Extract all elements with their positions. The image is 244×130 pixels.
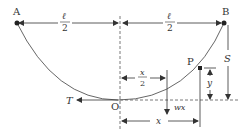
half-span-right-num: ℓ xyxy=(167,11,171,21)
s-label: S xyxy=(224,53,231,64)
wx-label: wx xyxy=(174,103,186,112)
half-span-left-den: 2 xyxy=(62,23,68,33)
half-span-left-num: ℓ xyxy=(62,11,66,21)
point-o-label: O xyxy=(111,101,119,112)
point-a-label: A xyxy=(12,6,21,17)
support-a-icon xyxy=(15,21,20,26)
tension-label: T xyxy=(66,95,74,106)
x-label: x xyxy=(156,116,161,126)
half-span-right-den: 2 xyxy=(167,23,173,33)
point-b-label: B xyxy=(222,6,229,17)
support-b-icon xyxy=(222,21,227,26)
cable-diagram: A B O P ℓ 2 ℓ 2 T x 2 wx x y S xyxy=(0,0,244,130)
point-p-label: P xyxy=(187,56,194,67)
half-x-num: x xyxy=(140,68,145,77)
point-p-icon xyxy=(198,66,202,70)
y-label: y xyxy=(206,78,213,88)
half-x-den: 2 xyxy=(140,79,145,88)
